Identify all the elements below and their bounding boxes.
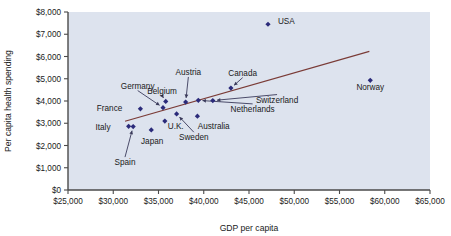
- x-tick-label: $45,000: [234, 197, 264, 206]
- data-point-label: U.K.: [168, 122, 184, 131]
- y-tick-label: $1,000: [36, 164, 61, 173]
- y-tick-label: $3,000: [36, 119, 61, 128]
- data-point-label: Belgium: [147, 87, 177, 96]
- data-point-label: Japan: [141, 137, 164, 146]
- data-point-label: Austria: [176, 68, 202, 77]
- x-tick-label: $50,000: [279, 197, 309, 206]
- y-tick-label: $0: [52, 186, 62, 195]
- scatter-plot: $25,000$30,000$35,000$40,000$45,000$50,0…: [0, 0, 451, 236]
- y-tick-label: $6,000: [36, 53, 61, 62]
- y-axis-tick-labels: $0$1,000$2,000$3,000$4,000$5,000$6,000$7…: [36, 8, 61, 195]
- data-point-label: Switzerland: [256, 96, 299, 105]
- data-point-label: Italy: [96, 123, 112, 132]
- data-point-label: Sweden: [179, 133, 209, 142]
- data-point-label: Australia: [198, 122, 230, 131]
- x-tick-label: $60,000: [370, 197, 400, 206]
- x-tick-label: $30,000: [98, 197, 128, 206]
- data-point-label: Canada: [228, 69, 257, 78]
- x-tick-label: $55,000: [325, 197, 355, 206]
- x-axis-title: GDP per capita: [220, 223, 279, 233]
- y-tick-label: $4,000: [36, 97, 61, 106]
- data-point-label: Spain: [115, 158, 136, 167]
- y-tick-label: $2,000: [36, 142, 61, 151]
- data-point-label: Netherlands: [231, 105, 275, 114]
- x-tick-label: $65,000: [415, 197, 445, 206]
- data-point-label: Norway: [356, 83, 385, 92]
- x-tick-label: $25,000: [53, 197, 83, 206]
- chart-figure: $25,000$30,000$35,000$40,000$45,000$50,0…: [0, 0, 451, 236]
- y-tick-label: $7,000: [36, 30, 61, 39]
- x-axis-tick-labels: $25,000$30,000$35,000$40,000$45,000$50,0…: [53, 197, 445, 206]
- y-tick-label: $8,000: [36, 8, 61, 17]
- data-point-label: France: [97, 104, 123, 113]
- data-point-label: USA: [278, 17, 295, 26]
- y-axis-title: Per capita health spending: [3, 50, 13, 152]
- x-tick-label: $35,000: [144, 197, 174, 206]
- y-tick-label: $5,000: [36, 75, 61, 84]
- x-tick-label: $40,000: [189, 197, 219, 206]
